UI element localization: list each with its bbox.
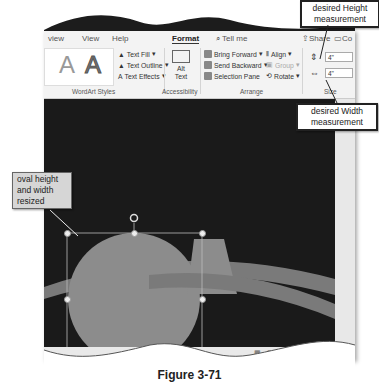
callout-width: desired Width measurement	[296, 103, 378, 131]
figure-caption: Figure 3-71	[0, 368, 379, 382]
callout-oval: oval height and width resized	[12, 172, 72, 209]
